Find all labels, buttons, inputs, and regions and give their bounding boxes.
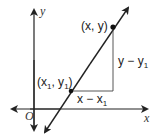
x-axis-label: x [143, 111, 150, 125]
y-axis-label: y [39, 4, 46, 18]
horizontal-leg-label: x − x1 [77, 92, 108, 108]
point-x1y1-label: (x1, y1) [37, 75, 73, 91]
vertical-leg-label: y − y1 [118, 54, 149, 70]
point-xy-label: (x, y) [81, 19, 108, 33]
point-x1y1 [69, 89, 74, 94]
origin-label: O [25, 109, 34, 123]
slope-diagram: y x O (x, y) (x1, y1) y − y1 x − x1 [0, 0, 159, 139]
point-xy [110, 24, 115, 29]
